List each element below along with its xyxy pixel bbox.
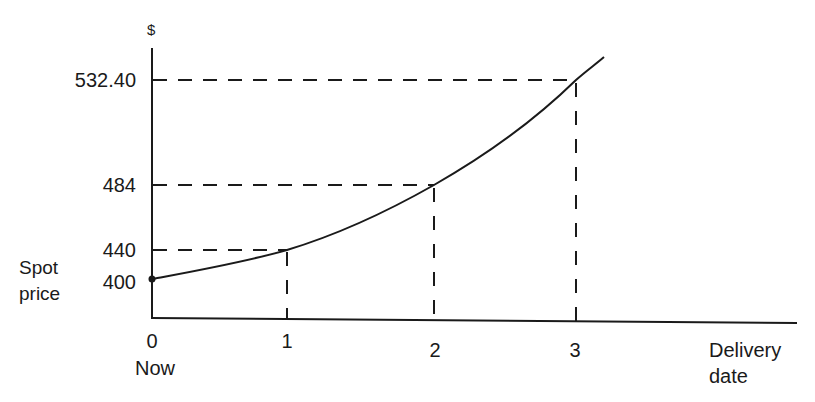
x-axis-title-line1: Delivery xyxy=(709,339,781,361)
x-tick-now: Now xyxy=(135,357,175,379)
spot-price-label-line2: price xyxy=(19,283,60,305)
chart-canvas xyxy=(0,0,815,402)
y-tick-484: 484 xyxy=(56,174,136,196)
x-tick-2: 2 xyxy=(420,339,450,361)
x-axis xyxy=(151,318,797,323)
x-tick-1: 1 xyxy=(272,330,302,352)
y-axis-unit: $ xyxy=(147,19,155,41)
x-tick-0: 0 xyxy=(137,330,167,352)
y-tick-532: 532.40 xyxy=(56,69,136,91)
futures-price-curve xyxy=(152,57,604,279)
spot-price-label-line1: Spot xyxy=(19,257,58,279)
y-tick-440: 440 xyxy=(56,239,136,261)
y-tick-400: 400 xyxy=(56,271,136,293)
x-tick-3: 3 xyxy=(560,339,590,361)
spot-price-point xyxy=(149,276,156,283)
x-axis-title-line2: date xyxy=(709,365,748,387)
